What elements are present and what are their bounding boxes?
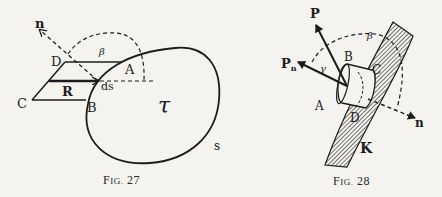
label-B: B xyxy=(344,50,353,64)
label-A: A xyxy=(314,99,324,113)
label-tau: τ xyxy=(158,93,171,118)
normal-n-dashed xyxy=(40,30,98,81)
label-n: n xyxy=(35,16,45,31)
caption-fig-28: FIG. 28 xyxy=(333,174,370,188)
label-K: K xyxy=(360,140,373,156)
label-B: B xyxy=(87,100,97,115)
figure-28: P Pn γ β B C A D n K FIG. 28 xyxy=(281,6,424,188)
label-R: R xyxy=(62,84,73,99)
label-Pn: Pn xyxy=(281,56,297,73)
label-D: D xyxy=(350,111,360,125)
label-P: P xyxy=(310,6,320,21)
label-n: n xyxy=(415,116,424,130)
figure-27: n β D A C R B ds τ s FIG. 27 xyxy=(17,16,220,187)
label-C: C xyxy=(17,96,27,111)
diagram-canvas: n β D A C R B ds τ s FIG. 27 P Pn γ xyxy=(0,0,442,197)
label-gamma: γ xyxy=(320,63,326,74)
label-A: A xyxy=(124,62,135,77)
label-C: C xyxy=(372,63,381,77)
label-s: s xyxy=(214,139,220,153)
label-beta: β xyxy=(366,30,373,41)
label-ds: ds xyxy=(101,80,114,93)
vector-P xyxy=(316,25,347,86)
caption-fig-27: FIG. 27 xyxy=(103,173,140,187)
cylinder-element xyxy=(334,63,375,108)
label-beta: β xyxy=(98,46,105,57)
label-D: D xyxy=(51,54,61,69)
closed-curve-s xyxy=(87,48,220,164)
